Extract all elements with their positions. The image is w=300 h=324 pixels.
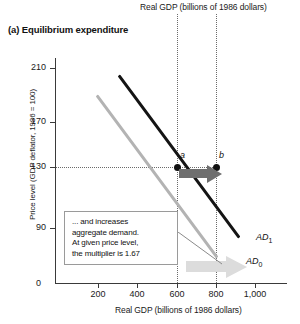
y-tick-label-170: 170 [16,116,46,126]
x-axis [55,283,287,284]
x-tick-800 [216,283,217,288]
y-tick-130 [50,167,55,168]
callout-line-4: the multiplier is 1.67 [72,249,171,260]
callout-line-3: At given price level, [72,238,171,249]
y-tick-90 [50,228,55,229]
point-a-label: a [180,150,185,160]
callout-leader-line [178,232,224,266]
callout-line-2: aggregate demand. [72,228,171,239]
shift-arrow-icon [179,165,223,183]
multiplier-callout: ... and increases aggregate demand. At g… [64,211,178,265]
y-axis [55,58,56,284]
x-tick-label-400: 400 [117,289,157,299]
x-tick-label-200: 200 [78,289,118,299]
top-axis-label: Real GDP (billions of 1986 dollars) [140,2,267,12]
x-axis-label: Real GDP (billions of 1986 dollars) [115,305,242,315]
y-tick-label-90: 90 [16,222,46,232]
x-tick-label-800: 800 [196,289,236,299]
ad0-label: AD0 [246,256,262,268]
y-tick-label-130: 130 [16,161,46,171]
x-tick-label-1000: 1,000 [235,289,275,299]
y-tick-210 [50,68,55,69]
x-tick-200 [98,283,99,288]
y-tick-label-210: 210 [16,62,46,72]
x-tick-1000 [255,283,256,288]
equilibrium-expenditure-figure: Real GDP (billions of 1986 dollars) (a) … [0,0,300,324]
x-tick-400 [137,283,138,288]
ad1-label: AD1 [256,232,272,244]
x-tick-600 [177,283,178,288]
y-axis-label: Price level (GDP deflator, 1986 = 100) [28,75,37,235]
y-tick-170 [50,122,55,123]
point-b-label: b [219,150,224,160]
callout-line-1: ... and increases [72,217,171,228]
origin-label: 0 [36,278,41,288]
x-tick-label-600: 600 [157,289,197,299]
panel-title: (a) Equilibrium expenditure [8,24,128,35]
